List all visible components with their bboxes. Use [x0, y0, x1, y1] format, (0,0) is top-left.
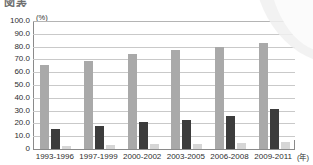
- x-axis-unit-label: (年): [297, 151, 309, 162]
- y-axis-tick-label: 0: [0, 145, 30, 153]
- bar: [215, 47, 224, 149]
- bar: [150, 144, 159, 149]
- bar: [182, 120, 191, 149]
- x-axis-tick-label: 2000-2002: [120, 152, 164, 161]
- bar-group: [128, 21, 159, 149]
- x-axis-tick-label: 2009-2011: [251, 152, 295, 161]
- bar: [128, 54, 137, 149]
- bar-group: [259, 21, 290, 149]
- y-axis-tick-label: 70.0: [0, 55, 30, 63]
- bar: [40, 65, 49, 149]
- bar-group: [40, 21, 71, 149]
- chart-page: 図表 (%) (年) 100.090.080.070.060.050.040.0…: [0, 0, 313, 165]
- x-axis-tick-label: 1993-1996: [33, 152, 77, 161]
- bar: [95, 126, 104, 149]
- x-axis-tick-label: 1997-1999: [77, 152, 121, 161]
- bar: [237, 143, 246, 149]
- bar-group: [171, 21, 202, 149]
- gridline: [33, 149, 295, 150]
- bar: [51, 129, 60, 149]
- bar: [259, 43, 268, 149]
- bar-chart: (%) (年) 100.090.080.070.060.050.040.030.…: [0, 8, 313, 165]
- x-axis-tick-label: 2003-2005: [164, 152, 208, 161]
- y-axis-tick-label: 90.0: [0, 30, 30, 38]
- bar-group: [215, 21, 246, 149]
- page-title: 図表: [4, 0, 27, 7]
- bar: [281, 142, 290, 149]
- y-axis-tick-label: 50.0: [0, 81, 30, 89]
- bar: [139, 122, 148, 149]
- y-axis-tick-label: 20.0: [0, 119, 30, 127]
- y-axis-tick-label: 10.0: [0, 132, 30, 140]
- bar-group: [84, 21, 115, 149]
- y-axis-tick-label: 60.0: [0, 68, 30, 76]
- bar: [226, 116, 235, 149]
- y-axis-tick-label: 100.0: [0, 17, 30, 25]
- bar: [84, 61, 93, 149]
- y-axis-tick-label: 80.0: [0, 43, 30, 51]
- bar: [62, 146, 71, 149]
- x-axis-tick-label: 2006-2008: [208, 152, 252, 161]
- bar: [171, 50, 180, 149]
- bar: [193, 144, 202, 149]
- bar: [270, 109, 279, 149]
- y-axis-tick-label: 30.0: [0, 107, 30, 115]
- y-axis-tick-label: 40.0: [0, 94, 30, 102]
- plot-area: [33, 21, 295, 149]
- bar: [106, 145, 115, 149]
